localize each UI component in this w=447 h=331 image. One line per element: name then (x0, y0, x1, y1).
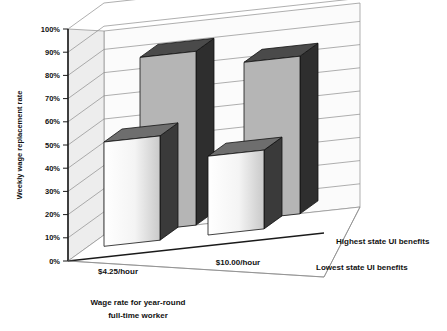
y-tick-label: 40% (45, 164, 60, 173)
x-category-label: $4.25/hour (98, 267, 138, 276)
bar-lowest-4.25 (104, 123, 178, 246)
legend-item-lowest: Lowest state UI benefits (316, 263, 408, 272)
y-tick-label: 70% (45, 94, 60, 103)
y-tick-label: 90% (45, 48, 60, 57)
y-axis-title: Weekly wage replacement rate (15, 91, 24, 200)
y-tick-label: 20% (45, 210, 60, 219)
y-tick-label: 10% (45, 233, 60, 242)
y-tick-label: 80% (45, 71, 60, 80)
y-tick-label: 100% (41, 25, 61, 34)
x-category-label: $10.00/hour (216, 258, 260, 267)
bar-lowest-10.00 (208, 137, 282, 235)
y-tick-label: 50% (45, 141, 60, 150)
y-tick-label: 30% (45, 187, 60, 196)
legend-item-highest: Highest state UI benefits (336, 237, 430, 246)
y-tick-label: 0% (49, 257, 60, 266)
y-tick-label: 60% (45, 117, 60, 126)
bar-side-face (160, 123, 178, 240)
x-axis-title-line1: Wage rate for year-round (91, 298, 186, 307)
x-axis-title-line2: full-time worker (108, 311, 168, 320)
left-wall (68, 29, 104, 261)
bar-side-face (264, 137, 282, 229)
bar-front-face (208, 150, 264, 235)
bar-chart-3d: 0% 10% 20% 30% 40% 50% 60% 70% 80% 90% 1… (0, 0, 447, 331)
chart-container: 0% 10% 20% 30% 40% 50% 60% 70% 80% 90% 1… (0, 0, 447, 331)
bar-side-face (300, 43, 318, 214)
bar-front-face (104, 136, 160, 246)
